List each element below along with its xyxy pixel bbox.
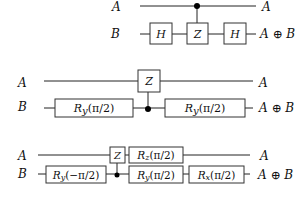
input-label-a: A — [17, 76, 27, 90]
output-label-a: A — [261, 0, 271, 14]
circuit-2: A B Ry(π/2) Z Ry(π/2) A A ⊕ B — [17, 70, 294, 117]
input-label-a: A — [17, 149, 27, 163]
circuit-3: A B Ry(−π/2) Z Rz(π/2) Ry(π/2) Rx(π/2) A… — [17, 147, 293, 183]
gate-z-label: Z — [113, 150, 122, 161]
circuit-1: A B H Z H A A ⊕ B — [110, 0, 295, 44]
control-dot — [115, 173, 120, 178]
output-label-b: A ⊕ B — [257, 168, 293, 182]
gate-z-label: Z — [193, 28, 202, 41]
quantum-circuits-diagram: A B H Z H A A ⊕ B A B Ry(π/2) Z Ry(π/2) … — [0, 0, 308, 197]
input-label-b: B — [17, 167, 27, 181]
gate-rx-label: Rx(π/2) — [197, 169, 236, 182]
gate-z-label: Z — [144, 75, 153, 88]
control-dot — [194, 3, 200, 9]
output-label-a: A — [258, 76, 268, 90]
gate-ry-1-label: Ry(π/2) — [73, 102, 114, 116]
gate-ry-label: Ry(π/2) — [136, 169, 175, 182]
gate-ry-2-label: Ry(π/2) — [184, 102, 225, 116]
input-label-b: B — [17, 100, 27, 114]
gate-ry-neg-label: Ry(−π/2) — [52, 169, 100, 182]
gate-h-1-label: H — [155, 28, 166, 41]
input-label-a: A — [111, 0, 121, 14]
input-label-b: B — [110, 27, 120, 41]
output-label-b: A ⊕ B — [259, 27, 295, 41]
control-dot — [145, 106, 151, 112]
output-label-b: A ⊕ B — [258, 101, 294, 115]
gate-h-2-label: H — [229, 28, 240, 41]
output-label-a: A — [259, 149, 269, 163]
gate-rz-label: Rz(π/2) — [136, 149, 174, 162]
